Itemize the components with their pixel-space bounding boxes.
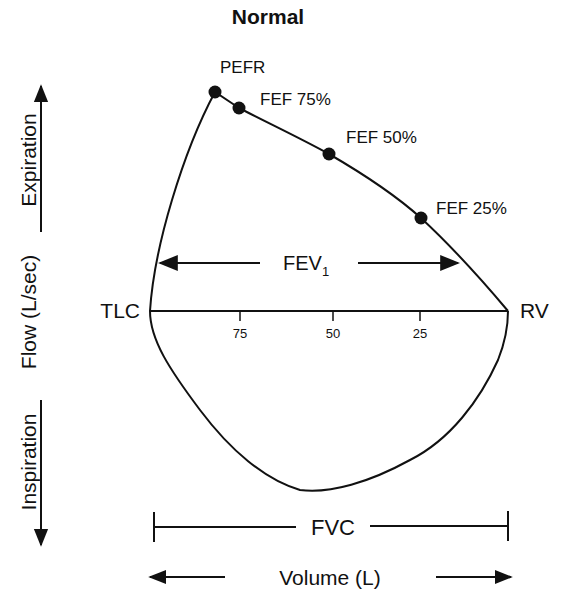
tick-label-50: 50 bbox=[326, 326, 340, 341]
fef50-marker bbox=[323, 148, 336, 161]
x-axis-label: Volume (L) bbox=[279, 566, 381, 589]
fvc-label: FVC bbox=[311, 515, 355, 540]
fef75-label: FEF 75% bbox=[260, 90, 331, 109]
tlc-label: TLC bbox=[100, 299, 140, 322]
flow-volume-loop-diagram: Normal TLC RV 75 50 25 PEFR FEF 75% FEF … bbox=[0, 0, 563, 605]
fev1-label: FEV1 bbox=[283, 252, 329, 279]
fef25-label: FEF 25% bbox=[436, 199, 507, 218]
tick-label-25: 25 bbox=[413, 326, 427, 341]
diagram-title: Normal bbox=[232, 5, 304, 28]
fef75-marker bbox=[233, 102, 246, 115]
rv-label: RV bbox=[520, 299, 549, 322]
inspiration-label: Inspiration bbox=[17, 414, 40, 511]
pefr-label: PEFR bbox=[220, 58, 265, 77]
pefr-marker bbox=[209, 86, 222, 99]
y-axis-label: Flow (L/sec) bbox=[17, 255, 40, 369]
fef25-marker bbox=[415, 212, 428, 225]
fef50-label: FEF 50% bbox=[346, 128, 417, 147]
expiration-label: Expiration bbox=[17, 113, 40, 206]
tick-label-75: 75 bbox=[233, 326, 247, 341]
